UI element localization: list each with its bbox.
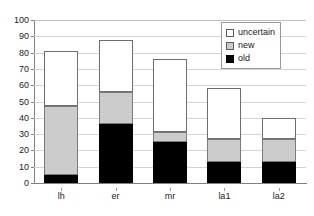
x-tick-label-er: er [99, 192, 133, 201]
legend-item-new: new [226, 39, 275, 52]
bar-segment-la1-new [207, 139, 241, 162]
y-tick-mark [31, 183, 34, 184]
y-tick-label: 100 [14, 16, 29, 25]
x-tick-label-lh: lh [44, 192, 78, 201]
bar-er [99, 20, 133, 183]
x-tick-label-la2: la2 [262, 192, 296, 201]
legend-item-uncertain: uncertain [226, 26, 275, 39]
bar-segment-la1-old [207, 162, 241, 183]
legend-swatch-uncertain-icon [226, 29, 234, 37]
legend-swatch-old-icon [226, 55, 234, 63]
stacked-bar-chart: 0102030405060708090100 lhermrla1la2 unce… [0, 0, 314, 216]
bar-mr [153, 20, 187, 183]
y-tick-label: 80 [19, 48, 29, 57]
legend-item-old: old [226, 52, 275, 65]
y-tick-label: 60 [19, 81, 29, 90]
bar-segment-la2-new [262, 139, 296, 162]
bar-segment-lh-old [44, 175, 78, 183]
y-tick-label: 20 [19, 146, 29, 155]
y-tick-label: 70 [19, 64, 29, 73]
y-tick-label: 10 [19, 162, 29, 171]
y-tick-label: 40 [19, 113, 29, 122]
bar-segment-er-old [99, 124, 133, 183]
bar-segment-er-uncertain [99, 40, 133, 92]
y-tick-label: 30 [19, 130, 29, 139]
bar-segment-la2-uncertain [262, 118, 296, 139]
bar-segment-mr-old [153, 142, 187, 183]
x-tick-label-mr: mr [153, 192, 187, 201]
y-tick-label: 90 [19, 32, 29, 41]
y-tick-label: 50 [19, 97, 29, 106]
bar-segment-mr-uncertain [153, 59, 187, 132]
x-tick-label-la1: la1 [207, 192, 241, 201]
legend-label-old: old [238, 54, 250, 63]
bar-segment-lh-new [44, 106, 78, 174]
bar-lh [44, 20, 78, 183]
bar-segment-er-new [99, 92, 133, 125]
bar-segment-lh-uncertain [44, 51, 78, 106]
y-tick-label: 0 [24, 179, 29, 188]
legend-swatch-new-icon [226, 42, 234, 50]
legend-label-uncertain: uncertain [238, 28, 275, 37]
bar-segment-la1-uncertain [207, 88, 241, 139]
legend-label-new: new [238, 41, 255, 50]
x-axis-line [34, 183, 307, 184]
bar-segment-mr-new [153, 132, 187, 142]
x-axis-labels: lhermrla1la2 [34, 188, 306, 210]
bar-segment-la2-old [262, 162, 296, 183]
chart-legend: uncertain new old [221, 22, 281, 69]
